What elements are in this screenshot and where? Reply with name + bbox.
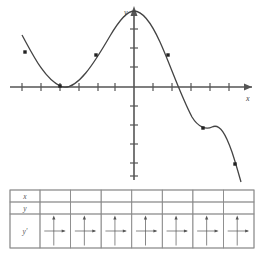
table-cell-icons bbox=[44, 216, 249, 246]
cell-x-arrow-icon bbox=[62, 229, 66, 232]
table-cell[interactable] bbox=[40, 190, 71, 202]
curve-marked-point bbox=[233, 162, 236, 165]
table-cell[interactable] bbox=[193, 190, 224, 202]
cell-x-arrow-icon bbox=[123, 229, 127, 232]
table-cell[interactable] bbox=[223, 190, 254, 202]
y-axis bbox=[130, 6, 138, 180]
table-cell[interactable] bbox=[162, 202, 193, 214]
axes-cross-icon[interactable] bbox=[44, 216, 65, 246]
curve-marked-point bbox=[201, 126, 204, 129]
table-cell[interactable] bbox=[162, 190, 193, 202]
cell-y-arrow-icon bbox=[113, 216, 116, 220]
axes-cross-icon[interactable] bbox=[197, 216, 218, 246]
x-axis-arrow-icon bbox=[244, 84, 252, 91]
marked-points-group bbox=[23, 50, 236, 165]
cell-y-arrow-icon bbox=[144, 216, 147, 220]
table-cell[interactable] bbox=[40, 202, 71, 214]
axes-cross-icon[interactable] bbox=[136, 216, 157, 246]
axes-cross-icon[interactable] bbox=[105, 216, 126, 246]
function-graph: x y bbox=[0, 0, 263, 186]
cell-x-arrow-icon bbox=[245, 229, 249, 232]
cell-y-arrow-icon bbox=[236, 216, 239, 220]
cell-x-arrow-icon bbox=[184, 229, 188, 232]
curve-marked-point bbox=[58, 84, 61, 87]
x-axis-label: x bbox=[245, 94, 250, 103]
values-table: xyy' bbox=[0, 186, 263, 253]
cell-y-arrow-icon bbox=[83, 216, 86, 220]
y-axis-label: y bbox=[123, 8, 128, 17]
cell-y-arrow-icon bbox=[52, 216, 55, 220]
values-table-panel: xyy' bbox=[0, 186, 263, 253]
curve-marked-point bbox=[94, 53, 97, 56]
table-row-label: y bbox=[22, 204, 27, 213]
graph-panel: x y bbox=[0, 0, 263, 186]
table-cell[interactable] bbox=[193, 202, 224, 214]
cell-y-arrow-icon bbox=[174, 216, 177, 220]
table-grid bbox=[10, 190, 254, 248]
axes-cross-icon[interactable] bbox=[228, 216, 249, 246]
cell-y-arrow-icon bbox=[205, 216, 208, 220]
table-cell[interactable] bbox=[101, 202, 132, 214]
table-cell[interactable] bbox=[101, 190, 132, 202]
axes-cross-icon[interactable] bbox=[167, 216, 188, 246]
table-cell[interactable] bbox=[132, 202, 163, 214]
table-row-label: y' bbox=[22, 227, 28, 236]
function-curve bbox=[22, 11, 241, 182]
cell-x-arrow-icon bbox=[153, 229, 157, 232]
cell-x-arrow-icon bbox=[92, 229, 96, 232]
table-row-label: x bbox=[22, 192, 27, 201]
cell-x-arrow-icon bbox=[215, 229, 219, 232]
curve-marked-point bbox=[23, 50, 26, 53]
table-cell[interactable] bbox=[71, 190, 102, 202]
x-axis bbox=[10, 83, 252, 91]
table-cell[interactable] bbox=[223, 202, 254, 214]
table-cell[interactable] bbox=[132, 190, 163, 202]
curve-marked-point bbox=[166, 53, 169, 56]
table-cell[interactable] bbox=[71, 202, 102, 214]
axes-cross-icon[interactable] bbox=[75, 216, 96, 246]
